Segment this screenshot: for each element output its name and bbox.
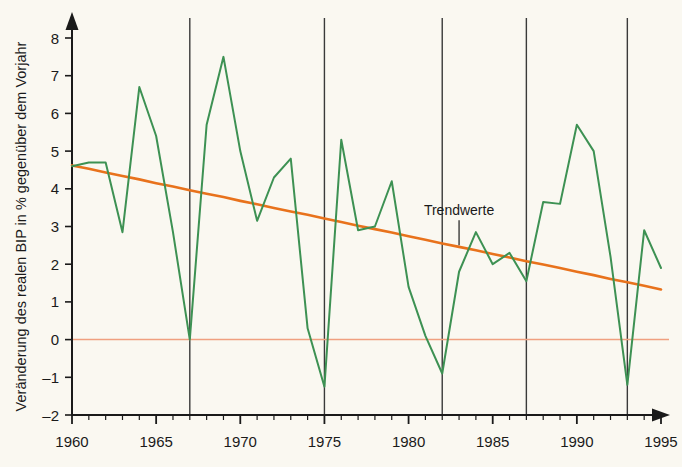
y-tick-label--1: –1	[42, 369, 59, 386]
y-tick-label-5: 5	[51, 143, 59, 160]
y-axis-title: Veränderung des realen BIP in % gegenübe…	[13, 41, 29, 411]
trendwerte-label: Trendwerte	[424, 202, 495, 218]
x-tick-label-1965: 1965	[139, 433, 172, 450]
x-tick-label-1975: 1975	[308, 433, 341, 450]
y-tick-label-4: 4	[51, 180, 59, 197]
x-tick-label-1960: 1960	[55, 433, 88, 450]
x-tick-label-1980: 1980	[392, 433, 425, 450]
y-tick-label-6: 6	[51, 105, 59, 122]
chart-background	[0, 0, 682, 467]
x-tick-label-1985: 1985	[476, 433, 509, 450]
y-tick-label--2: –2	[42, 407, 59, 424]
y-tick-label-7: 7	[51, 67, 59, 84]
y-tick-label-1: 1	[51, 293, 59, 310]
y-tick-label-0: 0	[51, 331, 59, 348]
y-axis-title-text: Veränderung des realen BIP in % gegenübe…	[13, 41, 29, 411]
chart-container: –2–1012345678 19601965197019751980198519…	[0, 0, 682, 467]
x-tick-label-1990: 1990	[560, 433, 593, 450]
y-tick-label-2: 2	[51, 256, 59, 273]
gdp-growth-line-chart: –2–1012345678 19601965197019751980198519…	[0, 0, 682, 467]
x-tick-label-1995: 1995	[644, 433, 677, 450]
y-tick-label-3: 3	[51, 218, 59, 235]
y-tick-label-8: 8	[51, 30, 59, 47]
x-tick-label-1970: 1970	[224, 433, 257, 450]
